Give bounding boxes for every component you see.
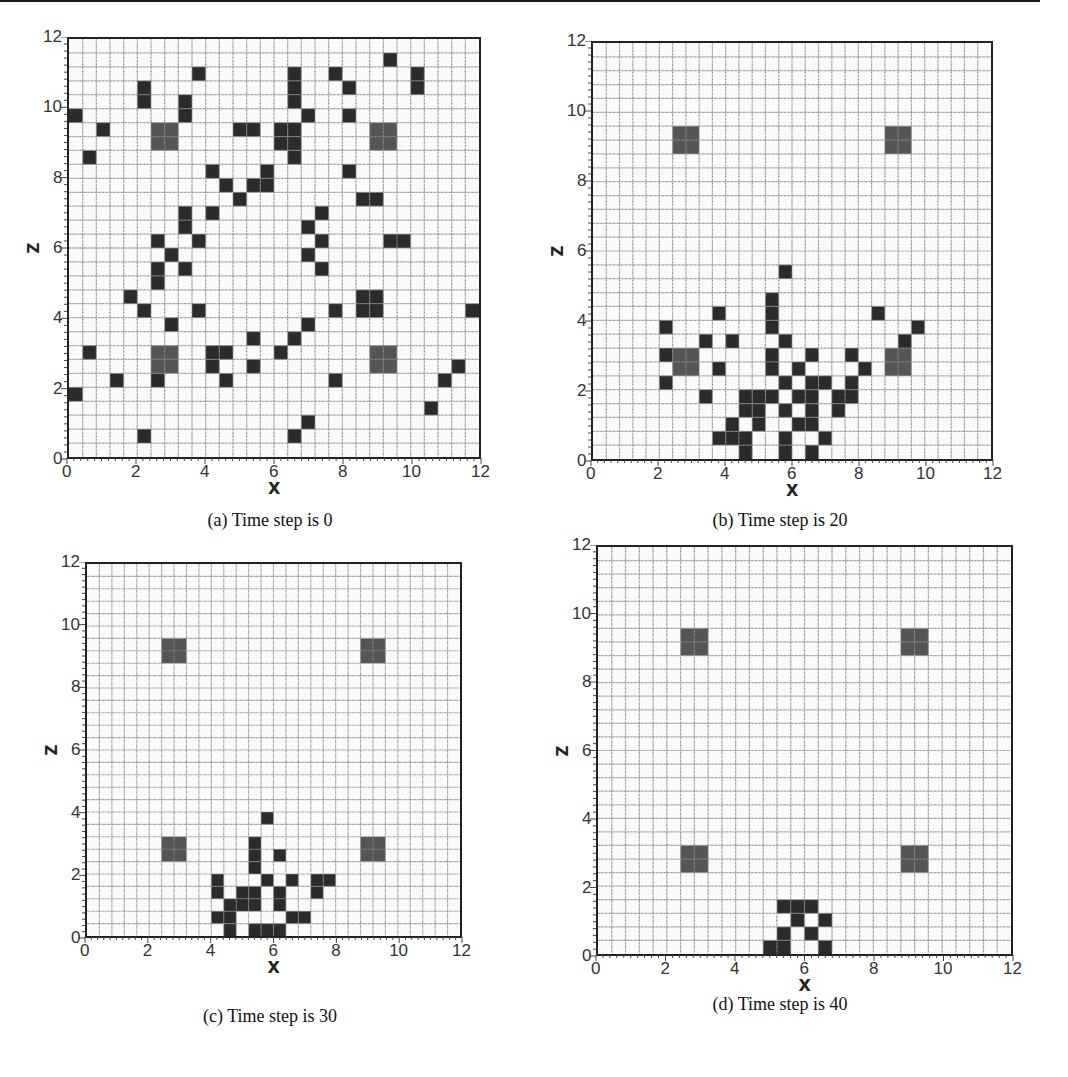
x-tick-label: 8	[331, 942, 340, 959]
y-tick-label: 10	[43, 98, 62, 115]
x-tick-label: 6	[269, 942, 278, 959]
y-tick-label: 4	[71, 804, 80, 821]
x-tick-label: 2	[143, 942, 152, 959]
y-tick-label: 2	[71, 866, 80, 883]
y-tick-label: 2	[577, 382, 586, 399]
x-tick-label: 4	[200, 463, 209, 480]
y-tick-label: 10	[61, 616, 80, 633]
x-tick-label: 10	[916, 465, 935, 482]
x-tick-label: 2	[653, 465, 662, 482]
x-tick-label: 6	[787, 465, 796, 482]
y-tick-label: 6	[577, 242, 586, 259]
x-tick-label: 10	[389, 942, 408, 959]
y-tick-label: 8	[71, 678, 80, 695]
x-tick-label: 6	[269, 463, 278, 480]
x-tick-label: 2	[131, 463, 140, 480]
x-tick-label: 2	[661, 960, 670, 977]
x-tick-label: 0	[80, 942, 89, 959]
x-axis-label: X	[268, 479, 280, 498]
y-axis-label: Z	[43, 745, 61, 756]
y-tick-label: 4	[582, 810, 591, 827]
x-tick-label: 12	[1003, 960, 1022, 977]
y-tick-label: 12	[61, 553, 80, 570]
y-tick-label: 6	[582, 742, 591, 759]
y-axis-label: Z	[554, 745, 572, 756]
axis-ticks	[590, 545, 1015, 964]
figure-caption: (b) Time step is 20	[712, 510, 847, 531]
x-tick-label: 8	[869, 960, 878, 977]
y-axis-label: Z	[25, 243, 43, 254]
x-tick-label: 0	[591, 960, 600, 977]
y-tick-label: 8	[577, 172, 586, 189]
x-axis-label: X	[786, 481, 798, 500]
y-tick-label: 12	[572, 536, 591, 553]
axis-ticks	[79, 562, 464, 946]
x-tick-label: 4	[206, 942, 215, 959]
y-tick-label: 8	[582, 673, 591, 690]
x-tick-label: 0	[62, 463, 71, 480]
figure-caption: (a) Time step is 0	[207, 510, 332, 531]
x-tick-label: 0	[586, 465, 595, 482]
x-tick-label: 6	[800, 960, 809, 977]
y-tick-label: 2	[582, 879, 591, 896]
y-tick-label: 12	[43, 28, 62, 45]
y-tick-label: 10	[572, 605, 591, 622]
x-tick-label: 8	[338, 463, 347, 480]
y-tick-label: 6	[71, 741, 80, 758]
x-axis-label: X	[799, 976, 811, 995]
axis-ticks	[61, 37, 483, 467]
y-tick-label: 4	[577, 312, 586, 329]
y-tick-label: 4	[53, 309, 62, 326]
y-tick-label: 10	[567, 102, 586, 119]
figure-caption: (d) Time step is 40	[712, 994, 847, 1015]
y-tick-label: 2	[53, 380, 62, 397]
y-tick-label: 6	[53, 239, 62, 256]
x-tick-label: 8	[854, 465, 863, 482]
x-tick-label: 12	[471, 463, 490, 480]
figure-caption: (c) Time step is 30	[203, 1006, 337, 1027]
x-tick-label: 4	[720, 465, 729, 482]
axis-ticks	[585, 41, 995, 469]
top-rule	[0, 0, 1040, 2]
x-tick-label: 12	[452, 942, 471, 959]
x-axis-label: X	[268, 958, 280, 977]
x-tick-label: 10	[402, 463, 421, 480]
x-tick-label: 10	[934, 960, 953, 977]
y-tick-label: 8	[53, 169, 62, 186]
y-axis-label: Z	[549, 246, 567, 257]
x-tick-label: 12	[983, 465, 1002, 482]
y-tick-label: 12	[567, 32, 586, 49]
x-tick-label: 4	[730, 960, 739, 977]
